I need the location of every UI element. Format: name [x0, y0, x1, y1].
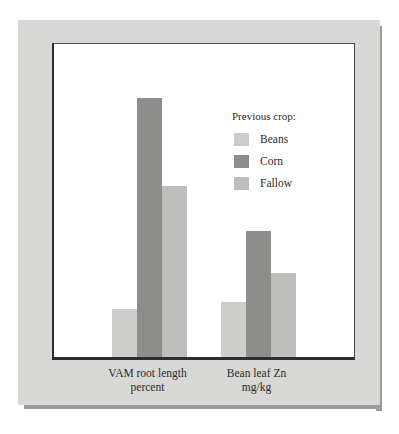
legend-title: Previous crop: — [232, 110, 342, 122]
legend-items: BeansCornFallow — [232, 130, 342, 192]
x-axis-label-line: Bean leaf Zn — [177, 366, 337, 380]
legend-label: Fallow — [260, 177, 292, 189]
legend-label: Beans — [260, 133, 288, 145]
legend-item: Corn — [232, 152, 342, 170]
legend-label: Corn — [260, 155, 283, 167]
bar-beans-1 — [112, 309, 137, 358]
legend-swatch-beans — [234, 133, 249, 146]
bar-beans-2 — [221, 302, 246, 357]
legend-swatch-corn — [234, 155, 249, 168]
bar-fallow-2 — [271, 273, 296, 357]
x-axis-label-line: mg/kg — [177, 380, 337, 394]
bar-fallow-1 — [162, 186, 187, 357]
bars-container — [54, 44, 354, 357]
bar-corn-1 — [137, 98, 162, 357]
x-axis-group-label: Bean leaf Znmg/kg — [177, 366, 337, 394]
bar-corn-2 — [246, 231, 271, 357]
chart-legend: Previous crop: BeansCornFallow — [232, 110, 342, 196]
legend-item: Beans — [232, 130, 342, 148]
legend-item: Fallow — [232, 174, 342, 192]
y-axis: 70605040302010 — [0, 0, 52, 434]
legend-swatch-fallow — [234, 177, 249, 190]
plot-area — [52, 43, 355, 360]
